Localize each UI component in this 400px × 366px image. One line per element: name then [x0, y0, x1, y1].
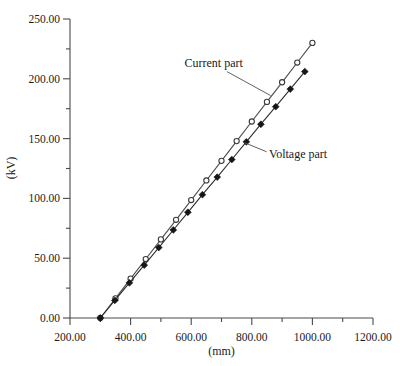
annotation-leader-line [227, 72, 271, 96]
x-tick-label: 800.00 [236, 331, 268, 343]
y-tick-label: 150.00 [28, 133, 60, 145]
series-current-part [98, 40, 315, 320]
marker-open-circle [310, 40, 315, 45]
y-tick-label: 200.00 [28, 73, 60, 85]
x-tick-label: 1200.00 [354, 331, 392, 343]
marker-open-circle [249, 119, 254, 124]
y-tick-label: 250.00 [28, 13, 60, 25]
y-tick-label: 0.00 [40, 312, 60, 324]
marker-open-circle [280, 80, 285, 85]
x-tick-label: 1000.00 [294, 331, 332, 343]
marker-open-circle [173, 217, 178, 222]
x-tick-label: 200.00 [54, 331, 86, 343]
x-axis-title: (mm) [208, 344, 235, 358]
y-axis-title: (kV) [4, 157, 18, 180]
y-tick-label: 50.00 [34, 252, 60, 264]
marker-open-circle [295, 60, 300, 65]
marker-open-circle [158, 237, 163, 242]
x-tick-label: 600.00 [175, 331, 207, 343]
annotation-current-part: Current part [185, 56, 271, 96]
marker-open-circle [189, 197, 194, 202]
annotation-leader-line [243, 142, 266, 152]
annotation-label-current-part: Current part [185, 56, 244, 70]
x-tick-label: 400.00 [115, 331, 147, 343]
line-chart: 200.00400.00600.00800.001000.001200.000.… [0, 0, 400, 366]
annotation-label-voltage-part: Voltage part [269, 147, 328, 161]
flashover-voltage-chart-figure: 200.00400.00600.00800.001000.001200.000.… [0, 0, 400, 366]
y-tick-label: 100.00 [28, 192, 60, 204]
marker-open-circle [264, 99, 269, 104]
marker-open-circle [204, 178, 209, 183]
annotation-voltage-part: Voltage part [243, 142, 328, 161]
marker-open-circle [234, 139, 239, 144]
marker-open-circle [219, 158, 224, 163]
series-voltage-part [97, 68, 308, 321]
